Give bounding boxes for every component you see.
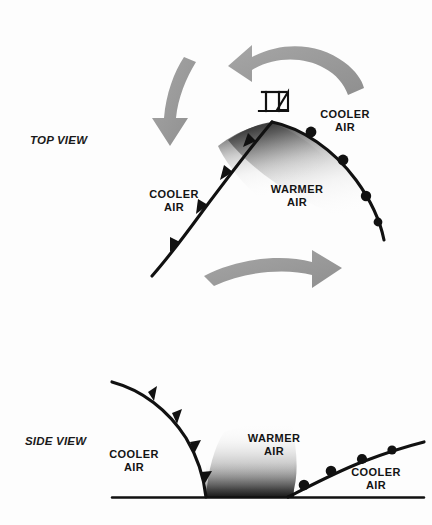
cooler-air-label-top-left: COOLER AIR [138, 188, 210, 213]
warmer-air-line1: WARMER [258, 183, 336, 196]
warmer-air-line2: AIR [258, 196, 336, 209]
cooler-air-line1: COOLER [340, 466, 412, 479]
cooler-air-line2: AIR [310, 121, 380, 134]
warmer-air-label-top: WARMER AIR [258, 183, 336, 208]
warmer-air-line1: WARMER [234, 432, 314, 445]
occlusion-triple-point-marker [259, 92, 288, 111]
rotation-arrow-bottom [204, 250, 342, 288]
cooler-air-line2: AIR [340, 479, 412, 492]
rotation-arrow-left [152, 57, 196, 146]
cooler-air-line2: AIR [98, 461, 170, 474]
top-view-group [152, 45, 384, 288]
cooler-air-label-top-right: COOLER AIR [310, 108, 380, 133]
warmer-air-label-side: WARMER AIR [234, 432, 314, 457]
rotation-arrow-top [228, 45, 364, 95]
top-view-label: TOP VIEW [30, 134, 87, 146]
cooler-air-label-side-left: COOLER AIR [98, 448, 170, 473]
cooler-air-line2: AIR [138, 201, 210, 214]
cold-front-line-side [112, 382, 206, 497]
cooler-air-line1: COOLER [138, 188, 210, 201]
warm-air-shading-side-base [206, 460, 294, 497]
side-view-label: SIDE VIEW [25, 435, 86, 447]
cooler-air-line1: COOLER [98, 448, 170, 461]
cooler-air-label-side-right: COOLER AIR [340, 466, 412, 491]
warmer-air-line2: AIR [234, 445, 314, 458]
cooler-air-line1: COOLER [310, 108, 380, 121]
